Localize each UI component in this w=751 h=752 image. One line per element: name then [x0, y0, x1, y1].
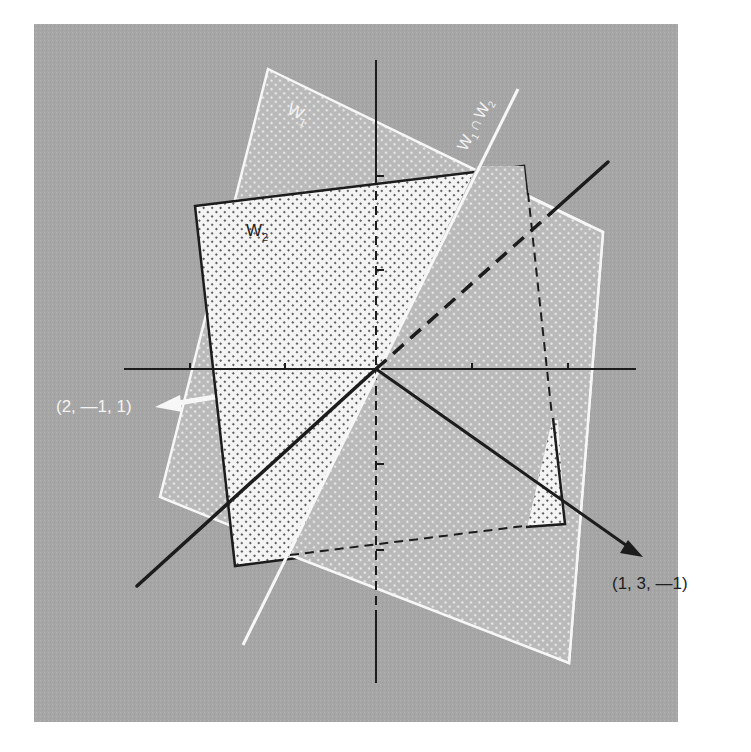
label-vector-left: (2, —1, 1): [56, 397, 132, 416]
label-vector-right: (1, 3, —1): [612, 574, 688, 593]
figure-stage: W1 W2 W1∩W2 (2, —1, 1) (1, 3, —1): [0, 0, 751, 752]
planes-diagram: W1 W2 W1∩W2 (2, —1, 1) (1, 3, —1): [0, 0, 751, 752]
